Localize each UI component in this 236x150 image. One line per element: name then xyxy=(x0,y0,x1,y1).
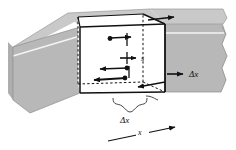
arrow-top-face-in xyxy=(110,37,131,38)
control-volume-cube xyxy=(78,14,165,93)
cube-edge-front-bottom xyxy=(80,92,165,93)
arrow-left-upper-dot xyxy=(125,66,130,71)
brace-curve xyxy=(113,98,147,112)
bar-left-end-face xyxy=(8,42,13,100)
control-volume-figure: s Δx Δx x xyxy=(0,0,236,150)
bar-front-face-left xyxy=(13,27,80,113)
arrow-top-face-in-dot xyxy=(108,36,113,41)
bar-front-face-right xyxy=(165,24,227,92)
figure-canvas: s Δx Δx x xyxy=(0,0,236,150)
label-delta-x-bottom: Δx xyxy=(119,115,129,125)
arrow-left-lower-dot xyxy=(123,76,128,81)
label-s: s xyxy=(141,54,144,63)
brace-right-tail xyxy=(146,96,158,100)
label-delta-x-right: Δx xyxy=(188,69,198,79)
label-axis-x: x xyxy=(137,128,142,137)
arrow-left-face-upper xyxy=(100,68,128,69)
delta-x-brace: Δx xyxy=(113,96,158,125)
x-axis: x xyxy=(108,126,175,141)
